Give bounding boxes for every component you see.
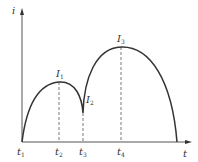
t3-label: t3: [79, 146, 87, 158]
t4-label: t4: [117, 146, 125, 158]
I2-label: I2: [85, 94, 94, 106]
I1-label: I1: [55, 68, 64, 80]
x-axis-label: t: [183, 148, 188, 159]
waveform-diagram: i t t1 t2 t3 t4 I1 I2 I3: [0, 0, 198, 162]
y-axis-label: i: [12, 5, 15, 16]
x-axis-arrow-icon: [185, 140, 192, 144]
y-axis-arrow-icon: [20, 8, 24, 15]
t2-label: t2: [55, 146, 63, 158]
current-curve: [22, 47, 177, 142]
I3-label: I3: [116, 33, 125, 45]
t1-label: t1: [17, 146, 25, 158]
